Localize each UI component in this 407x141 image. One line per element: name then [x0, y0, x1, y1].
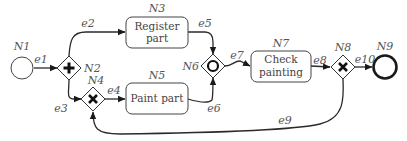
edge-label-e4: e4 [107, 84, 121, 97]
node-label-n5: N5 [148, 69, 166, 82]
edge-label-e1: e1 [34, 53, 48, 66]
parallel-gateway-n2[interactable] [57, 56, 81, 80]
edge-label-e7: e7 [230, 49, 244, 62]
exclusive-gateway-n4[interactable] [81, 87, 105, 111]
edge-label-e5: e5 [198, 17, 212, 30]
edge-e3 [68, 80, 81, 99]
edge-e6 [188, 78, 213, 102]
edge-label-e9: e9 [278, 114, 292, 127]
bpmn-diagram: Register part Paint part Check painting … [0, 0, 407, 141]
edge-label-e6: e6 [207, 102, 221, 115]
edge-e5 [188, 32, 213, 54]
edges [34, 32, 372, 134]
edge-label-e8: e8 [313, 54, 327, 67]
node-label-n6: N6 [181, 60, 199, 73]
node-label-n3: N3 [148, 2, 166, 15]
edge-label-e3: e3 [54, 102, 68, 115]
task-register-part[interactable]: Register part [126, 17, 188, 48]
node-label-n4: N4 [87, 74, 105, 87]
task-label-line1: Paint part [131, 92, 185, 104]
start-event-n1[interactable] [11, 57, 33, 79]
edge-label-e10: e10 [355, 53, 376, 66]
end-event-n9[interactable] [374, 56, 397, 79]
task-check-painting[interactable]: Check painting [251, 51, 311, 82]
inclusive-gateway-n6[interactable] [201, 54, 225, 78]
node-label-n1: N1 [13, 40, 31, 53]
task-label-line1: Check [264, 53, 298, 65]
task-label-line2: painting [259, 66, 303, 78]
edge-e2 [69, 32, 125, 56]
node-label-n7: N7 [272, 37, 290, 50]
node-label-n8: N8 [334, 41, 352, 54]
task-paint-part[interactable]: Paint part [126, 83, 188, 114]
node-label-n9: N9 [376, 40, 394, 53]
task-label-line1: Register [134, 20, 180, 32]
task-label-line2: part [146, 32, 169, 44]
exclusive-gateway-n8[interactable] [331, 55, 355, 79]
edge-label-e2: e2 [81, 17, 95, 30]
